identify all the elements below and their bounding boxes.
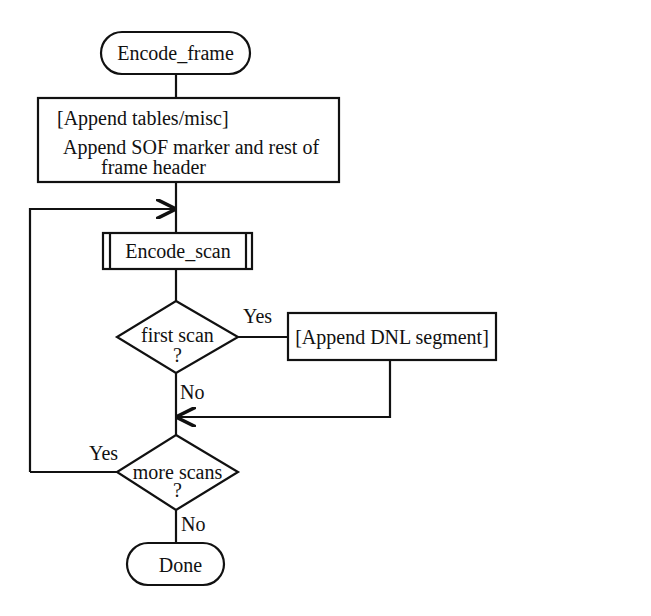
more-scans-yes-label: Yes [89, 443, 118, 463]
more-scans-no-label: No [181, 514, 205, 534]
first-scan-line1: first scan [117, 325, 238, 345]
frame-header-line1: [Append tables/misc] [57, 108, 229, 128]
frame-header-line3: frame header [101, 157, 206, 177]
start-label: Encode_frame [101, 43, 250, 63]
more-scans-line2: ? [117, 480, 238, 500]
flowchart-canvas [0, 0, 651, 616]
flowchart: Encode_frame [Append tables/misc] Append… [0, 0, 651, 616]
frame-header-line2: Append SOF marker and rest of [63, 137, 319, 157]
first-scan-line2: ? [117, 345, 238, 365]
first-scan-no-label: No [180, 382, 204, 402]
dnl-label: [Append DNL segment] [288, 327, 496, 347]
end-label: Done [127, 555, 224, 575]
encode-scan-label: Encode_scan [110, 241, 246, 261]
connector-dnl-return [178, 360, 390, 417]
first-scan-yes-label: Yes [243, 306, 272, 326]
